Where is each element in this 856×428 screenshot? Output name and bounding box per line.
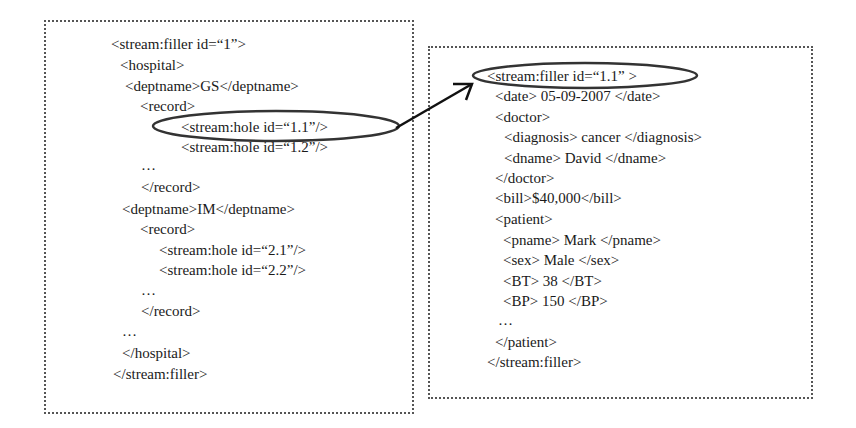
filler-1-1-highlight-ellipse	[473, 63, 697, 88]
hole-1-1-highlight-ellipse	[153, 111, 399, 141]
connector-overlay	[0, 0, 856, 428]
arrow-icon	[396, 84, 472, 128]
